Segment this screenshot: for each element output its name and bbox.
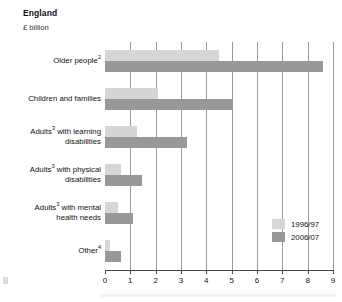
x-tick-label: 9 xyxy=(331,276,335,285)
x-tick-label: 4 xyxy=(204,276,208,285)
bar xyxy=(105,240,110,251)
x-tick-0 xyxy=(105,270,106,274)
bar xyxy=(105,175,142,186)
x-tick-8 xyxy=(308,270,309,274)
x-tick-label: 8 xyxy=(305,276,309,285)
x-tick-7 xyxy=(282,270,283,274)
legend-label: 2006/07 xyxy=(291,233,319,242)
category-label: Adults3 with mentalhealth needs xyxy=(5,203,101,222)
legend-swatch xyxy=(272,219,285,229)
bar xyxy=(105,137,187,148)
gridline-5 xyxy=(232,42,233,270)
category-label: Children and families xyxy=(5,94,101,104)
x-axis-line xyxy=(105,270,334,271)
page-bottom-artifact xyxy=(100,294,336,297)
bar xyxy=(105,202,118,213)
x-tick-1 xyxy=(130,270,131,274)
chart-subtitle: £ billion xyxy=(23,23,49,32)
bar xyxy=(105,50,219,61)
bar xyxy=(105,88,158,99)
x-tick-label: 0 xyxy=(103,276,107,285)
x-tick-label: 7 xyxy=(280,276,284,285)
x-tick-5 xyxy=(232,270,233,274)
x-tick-4 xyxy=(206,270,207,274)
legend-item: 1996/97 xyxy=(272,219,336,230)
chart-container: England £ billion Older people2Children … xyxy=(0,0,342,302)
chart-title: England xyxy=(23,8,57,18)
bar xyxy=(105,213,133,224)
legend-label: 1996/97 xyxy=(291,220,319,229)
x-tick-6 xyxy=(257,270,258,274)
x-tick-label: 6 xyxy=(255,276,259,285)
bar xyxy=(105,164,121,175)
x-tick-label: 3 xyxy=(179,276,183,285)
x-tick-9 xyxy=(333,270,334,274)
bar xyxy=(105,126,137,137)
x-tick-label: 1 xyxy=(128,276,132,285)
gridline-3 xyxy=(181,42,182,270)
bar xyxy=(105,61,323,72)
category-label: Adults3 with learningdisabilities xyxy=(5,127,101,146)
category-axis-labels: Older people2Children and familiesAdults… xyxy=(0,42,101,270)
category-label: Adults3 with physicaldisabilities xyxy=(5,165,101,184)
gridline-1 xyxy=(130,42,131,270)
legend-item: 2006/07 xyxy=(272,232,336,243)
bar xyxy=(105,99,232,110)
gridline-6 xyxy=(257,42,258,270)
x-tick-label: 5 xyxy=(229,276,233,285)
bar xyxy=(105,251,121,262)
legend-swatch xyxy=(272,232,285,242)
category-label: Other4 xyxy=(5,246,101,256)
x-tick-2 xyxy=(156,270,157,274)
category-label: Older people2 xyxy=(5,56,101,66)
x-tick-3 xyxy=(181,270,182,274)
x-tick-label: 2 xyxy=(153,276,157,285)
page-edge-artifact xyxy=(3,277,8,284)
gridline-2 xyxy=(156,42,157,270)
gridline-4 xyxy=(206,42,207,270)
chart-legend: 1996/972006/07 xyxy=(272,219,336,245)
